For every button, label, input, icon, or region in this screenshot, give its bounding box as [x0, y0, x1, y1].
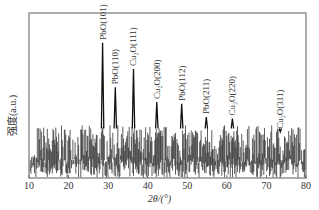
- peak-label: PbO(101): [98, 4, 108, 40]
- peak-label: Cu₂O(200): [152, 59, 162, 99]
- peak-label: PbO(110): [110, 49, 120, 84]
- x-tick-label: 10: [24, 180, 34, 191]
- x-tick-label: 70: [261, 180, 271, 191]
- pattern-noise: [30, 125, 305, 178]
- y-axis-label: 强度(a.u.): [4, 81, 19, 151]
- peak-line: [156, 102, 158, 128]
- x-tick-label: 30: [103, 180, 113, 191]
- peak-line: [101, 43, 103, 129]
- x-tick-label: 40: [143, 180, 153, 191]
- peak-label: PbO(112): [177, 66, 187, 101]
- x-tick-label: 60: [222, 180, 232, 191]
- plot-area: [30, 43, 305, 178]
- x-axis-label: 2θ/(°): [0, 193, 319, 204]
- peak-line: [205, 117, 207, 129]
- peak-line: [132, 69, 134, 128]
- peak-label: PbO(211): [201, 79, 211, 114]
- peak-label: Cu₂O(220): [227, 76, 237, 116]
- peak-line: [231, 119, 233, 129]
- xrd-chart: PbO(101)PbO(110)Cu₂O(111)Cu₂O(200)PbO(11…: [0, 0, 319, 210]
- x-tick-label: 50: [182, 180, 192, 191]
- peak-label: Cu₂O(311): [275, 89, 285, 128]
- peak-line: [181, 104, 183, 129]
- peak-line: [114, 87, 116, 128]
- x-tick-label: 20: [64, 180, 74, 191]
- peak-label: Cu₂O(111): [128, 27, 138, 66]
- x-tick-label: 80: [301, 180, 311, 191]
